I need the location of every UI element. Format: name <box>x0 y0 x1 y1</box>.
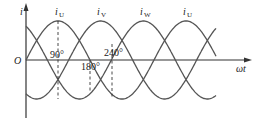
svg-text:i: i <box>183 6 186 17</box>
svg-text:i: i <box>55 6 58 17</box>
peak-label-iV: i V <box>97 6 106 19</box>
svg-text:i: i <box>97 6 100 17</box>
svg-text:U: U <box>59 11 64 19</box>
angle-90-label: 90° <box>50 49 64 60</box>
origin-label: O <box>14 55 21 66</box>
angle-240-label: 240° <box>104 47 123 58</box>
peak-label-iU-2: i U <box>183 6 192 19</box>
svg-text:i: i <box>140 6 143 17</box>
angle-180-label: 180° <box>81 61 100 72</box>
svg-text:V: V <box>101 11 106 19</box>
svg-text:U: U <box>187 11 192 19</box>
peak-label-iU-1: i U <box>55 6 64 19</box>
y-axis-arrow-icon <box>24 3 29 11</box>
x-axis-arrow-icon <box>244 58 252 63</box>
waveform-diagram: i O ωt 90° 180° 240° i U i V i W i U <box>0 0 264 124</box>
svg-text:W: W <box>144 11 151 19</box>
y-axis-label: i <box>20 6 23 17</box>
x-axis-label: ωt <box>236 63 246 74</box>
peak-label-iW: i W <box>140 6 151 19</box>
